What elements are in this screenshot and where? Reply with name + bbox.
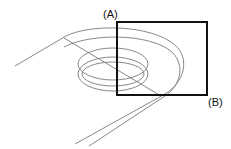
inner-spiral (64, 37, 180, 146)
ellipse-top-outer (78, 48, 148, 80)
label-a: (A) (103, 8, 118, 20)
ellipse-inner (82, 62, 144, 86)
label-b: (B) (208, 96, 223, 108)
outer-spiral (15, 28, 184, 144)
spiral-diagram (0, 0, 231, 149)
